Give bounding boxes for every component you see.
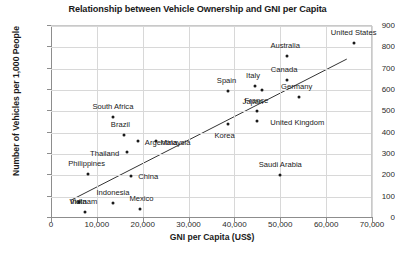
data-point xyxy=(226,123,229,126)
gridline-vertical xyxy=(326,26,327,217)
x-tick-label: 10,000 xyxy=(85,220,109,229)
gridline-horizontal xyxy=(51,69,371,70)
y-tick-label: 100 xyxy=(349,191,395,200)
data-point xyxy=(125,150,128,153)
data-point-label: United Kingdom xyxy=(270,117,324,126)
data-point xyxy=(279,174,282,177)
x-axis-line xyxy=(51,217,373,218)
y-axis-label: Number of Vehicles per 1,000 People xyxy=(11,11,21,191)
data-point-label: Brazil xyxy=(111,119,130,128)
data-point-label: Philippines xyxy=(68,159,105,168)
data-point xyxy=(111,115,114,118)
data-point-label: Spain xyxy=(217,76,236,85)
data-point-label: South Africa xyxy=(92,101,133,110)
y-tick-mark xyxy=(47,132,51,133)
gridline-horizontal xyxy=(51,26,371,27)
gridline-vertical xyxy=(234,26,235,217)
data-point xyxy=(137,140,140,143)
x-tick-label: 30,000 xyxy=(176,220,200,229)
y-tick-label: 200 xyxy=(349,170,395,179)
data-point xyxy=(155,140,158,143)
y-tick-mark xyxy=(47,174,51,175)
y-tick-mark xyxy=(47,153,51,154)
x-tick-label: 70,000 xyxy=(360,220,384,229)
data-point xyxy=(260,89,263,92)
gridline-vertical xyxy=(189,26,190,217)
gridline-horizontal xyxy=(51,133,371,134)
gridline-vertical xyxy=(143,26,144,217)
data-point xyxy=(139,208,142,211)
y-tick-label: 400 xyxy=(349,127,395,136)
x-tick-label: 0 xyxy=(49,220,53,229)
data-point-label: Canada xyxy=(271,65,298,74)
gridline-vertical xyxy=(372,26,373,217)
x-tick-label: 40,000 xyxy=(222,220,246,229)
y-tick-mark xyxy=(47,46,51,47)
data-point xyxy=(256,110,259,113)
chart-title: Relationship between Vehicle Ownership a… xyxy=(0,4,395,14)
y-tick-label: 300 xyxy=(349,149,395,158)
gridline-horizontal xyxy=(51,197,371,198)
data-point xyxy=(84,210,87,213)
y-tick-mark xyxy=(47,68,51,69)
data-point xyxy=(130,175,133,178)
data-point xyxy=(254,84,257,87)
data-point xyxy=(226,90,229,93)
y-tick-label: 500 xyxy=(349,106,395,115)
data-point-label: China xyxy=(138,172,158,181)
data-point-label: Malaysia xyxy=(160,138,190,147)
gridline-horizontal xyxy=(51,90,371,91)
data-point-label: Germany xyxy=(281,82,312,91)
data-point-label: Indonesia xyxy=(96,188,129,197)
gridline-horizontal xyxy=(51,175,371,176)
data-point xyxy=(286,54,289,57)
data-point-label: Australia xyxy=(270,40,300,49)
y-tick-label: 800 xyxy=(349,42,395,51)
data-point-label: Vietnam xyxy=(70,196,98,205)
data-point-label: Mexico xyxy=(129,194,153,203)
y-tick-label: 600 xyxy=(349,85,395,94)
data-point xyxy=(111,202,114,205)
data-point-label: Korea xyxy=(214,131,234,140)
y-tick-mark xyxy=(47,89,51,90)
y-tick-mark xyxy=(47,196,51,197)
data-point xyxy=(123,133,126,136)
data-point-label: Saudi Arabia xyxy=(259,160,302,169)
x-tick-label: 20,000 xyxy=(130,220,154,229)
data-point-label: Italy xyxy=(246,70,260,79)
y-tick-mark xyxy=(47,110,51,111)
data-point-label: France xyxy=(245,96,269,105)
gridline-horizontal xyxy=(51,111,371,112)
y-tick-label: 900 xyxy=(349,21,395,30)
y-tick-label: 700 xyxy=(349,63,395,72)
scatter-chart: Relationship between Vehicle Ownership a… xyxy=(0,0,395,259)
x-axis-label: GNI per Capita (US$) xyxy=(51,232,373,242)
data-point-label: Thailand xyxy=(90,148,119,157)
y-tick-mark xyxy=(47,25,51,26)
data-point xyxy=(297,96,300,99)
gridline-horizontal xyxy=(51,47,371,48)
plot-area: United StatesAustraliaCanadaItalySpainJa… xyxy=(51,25,372,217)
x-tick-label: 60,000 xyxy=(314,220,338,229)
data-point xyxy=(86,173,89,176)
x-tick-label: 50,000 xyxy=(268,220,292,229)
data-point xyxy=(256,119,259,122)
